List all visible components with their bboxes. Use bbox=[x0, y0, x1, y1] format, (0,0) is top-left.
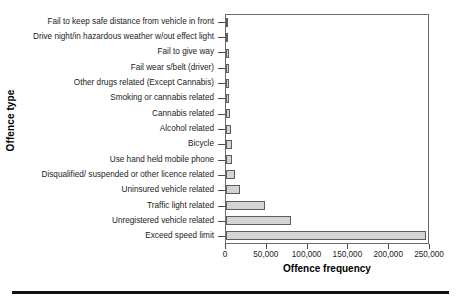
x-tick bbox=[225, 244, 226, 249]
y-tick bbox=[218, 229, 225, 244]
bar bbox=[226, 18, 228, 27]
bar-row bbox=[226, 61, 428, 76]
bar bbox=[226, 49, 229, 58]
y-axis-tick-marks bbox=[218, 14, 225, 244]
x-tick bbox=[429, 244, 430, 249]
y-tick bbox=[218, 152, 225, 167]
bar bbox=[226, 109, 230, 118]
bar-row bbox=[226, 197, 428, 212]
category-label: Drive night/in hazardous weather w/out e… bbox=[33, 33, 214, 41]
x-tick-label: 150,000 bbox=[333, 250, 363, 259]
category-label-column: Fail to keep safe distance from vehicle … bbox=[20, 14, 218, 244]
category-label-row: Unregistered vehicle related bbox=[20, 213, 218, 228]
category-label: Exceed speed limit bbox=[145, 232, 214, 240]
category-label-row: Alcohol related bbox=[20, 121, 218, 136]
x-axis-tick-marks bbox=[225, 244, 429, 249]
bar bbox=[226, 140, 232, 149]
y-tick bbox=[218, 121, 225, 136]
bar bbox=[226, 125, 231, 134]
y-tick bbox=[218, 106, 225, 121]
bar-row bbox=[226, 167, 428, 182]
y-tick bbox=[218, 167, 225, 182]
x-tick bbox=[266, 244, 267, 249]
category-label: Uninsured vehicle related bbox=[122, 186, 214, 194]
category-label: Unregistered vehicle related bbox=[112, 217, 214, 225]
y-tick bbox=[218, 75, 225, 90]
x-tick bbox=[347, 244, 348, 249]
bar bbox=[226, 170, 235, 179]
category-label: Bicycle bbox=[188, 140, 214, 148]
bar-row bbox=[226, 121, 428, 136]
x-tick-label: 250,000 bbox=[414, 250, 444, 259]
category-label-row: Bicycle bbox=[20, 137, 218, 152]
bar bbox=[226, 185, 240, 194]
x-tick bbox=[307, 244, 308, 249]
bar-row bbox=[226, 15, 428, 30]
category-label-row: Other drugs related (Except Cannabis) bbox=[20, 75, 218, 90]
bottom-rule bbox=[12, 291, 449, 294]
bar-row bbox=[226, 137, 428, 152]
x-tick-label: 200,000 bbox=[373, 250, 403, 259]
y-tick bbox=[218, 213, 225, 228]
category-label-row: Uninsured vehicle related bbox=[20, 183, 218, 198]
y-tick bbox=[218, 198, 225, 213]
x-tick-label: 0 bbox=[223, 250, 228, 259]
category-label-row: Fail to keep safe distance from vehicle … bbox=[20, 14, 218, 29]
bar bbox=[226, 155, 232, 164]
bar bbox=[226, 231, 426, 240]
category-label: Use hand held mobile phone bbox=[110, 156, 214, 164]
y-tick bbox=[218, 14, 225, 29]
category-label-row: Disqualified/ suspended or other licence… bbox=[20, 167, 218, 182]
y-tick bbox=[218, 183, 225, 198]
category-label-row: Exceed speed limit bbox=[20, 229, 218, 244]
category-label: Traffic light related bbox=[147, 202, 214, 210]
y-axis-title-text: Offence type bbox=[6, 89, 17, 151]
bar-series bbox=[226, 15, 428, 243]
chart-figure: Offence type Fail to keep safe distance … bbox=[0, 0, 457, 306]
bar-row bbox=[226, 228, 428, 243]
y-tick bbox=[218, 137, 225, 152]
y-tick bbox=[218, 60, 225, 75]
category-label: Smoking or cannabis related bbox=[110, 94, 214, 102]
bar-row bbox=[226, 182, 428, 197]
bar bbox=[226, 33, 228, 42]
category-label-row: Traffic light related bbox=[20, 198, 218, 213]
x-axis-tick-labels: 050,000100,000150,000200,000250,000 bbox=[185, 250, 457, 262]
category-label: Other drugs related (Except Cannabis) bbox=[74, 79, 214, 87]
bar bbox=[226, 79, 229, 88]
bar-row bbox=[226, 45, 428, 60]
category-label-row: Cannabis related bbox=[20, 106, 218, 121]
bar bbox=[226, 64, 229, 73]
plot-area bbox=[225, 14, 429, 244]
bar bbox=[226, 201, 265, 210]
category-label: Fail wear s/belt (driver) bbox=[131, 64, 214, 72]
category-label: Cannabis related bbox=[152, 110, 214, 118]
y-tick bbox=[218, 29, 225, 44]
y-tick bbox=[218, 45, 225, 60]
y-axis-title: Offence type bbox=[0, 0, 22, 240]
bar-row bbox=[226, 76, 428, 91]
bar bbox=[226, 94, 229, 103]
bar-row bbox=[226, 106, 428, 121]
x-tick-label: 100,000 bbox=[292, 250, 322, 259]
bar bbox=[226, 216, 291, 225]
category-label-row: Smoking or cannabis related bbox=[20, 91, 218, 106]
bar-row bbox=[226, 152, 428, 167]
category-label-row: Fail to give way bbox=[20, 45, 218, 60]
x-tick-label: 50,000 bbox=[253, 250, 278, 259]
bar-row bbox=[226, 91, 428, 106]
x-tick bbox=[388, 244, 389, 249]
category-label: Disqualified/ suspended or other licence… bbox=[42, 171, 215, 179]
bar-row bbox=[226, 213, 428, 228]
category-label: Fail to give way bbox=[158, 48, 214, 56]
category-label-row: Fail wear s/belt (driver) bbox=[20, 60, 218, 75]
category-label-row: Use hand held mobile phone bbox=[20, 152, 218, 167]
y-tick bbox=[218, 91, 225, 106]
bar-row bbox=[226, 30, 428, 45]
x-axis-title: Offence frequency bbox=[225, 263, 429, 274]
category-label-row: Drive night/in hazardous weather w/out e… bbox=[20, 29, 218, 44]
category-label: Alcohol related bbox=[160, 125, 214, 133]
category-label: Fail to keep safe distance from vehicle … bbox=[47, 18, 214, 26]
